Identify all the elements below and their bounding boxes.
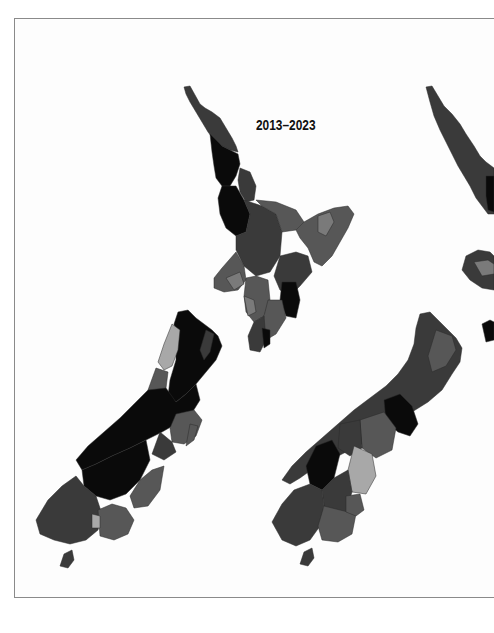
region-southland-right — [272, 484, 324, 546]
region-gore-light — [92, 514, 100, 528]
right-map-north-island — [426, 86, 494, 342]
region-stewart-island-right — [300, 548, 314, 566]
choropleth-maps — [0, 0, 494, 633]
left-map-south-island — [36, 310, 222, 568]
region-northland-right — [426, 86, 494, 214]
panel-title: 2013–2023 — [256, 117, 316, 133]
region-dunedin-right — [346, 494, 364, 516]
region-clutha — [98, 504, 134, 540]
region-wellington-right — [482, 320, 494, 342]
region-stewart-island — [60, 550, 74, 568]
right-map-south-island — [272, 312, 462, 566]
